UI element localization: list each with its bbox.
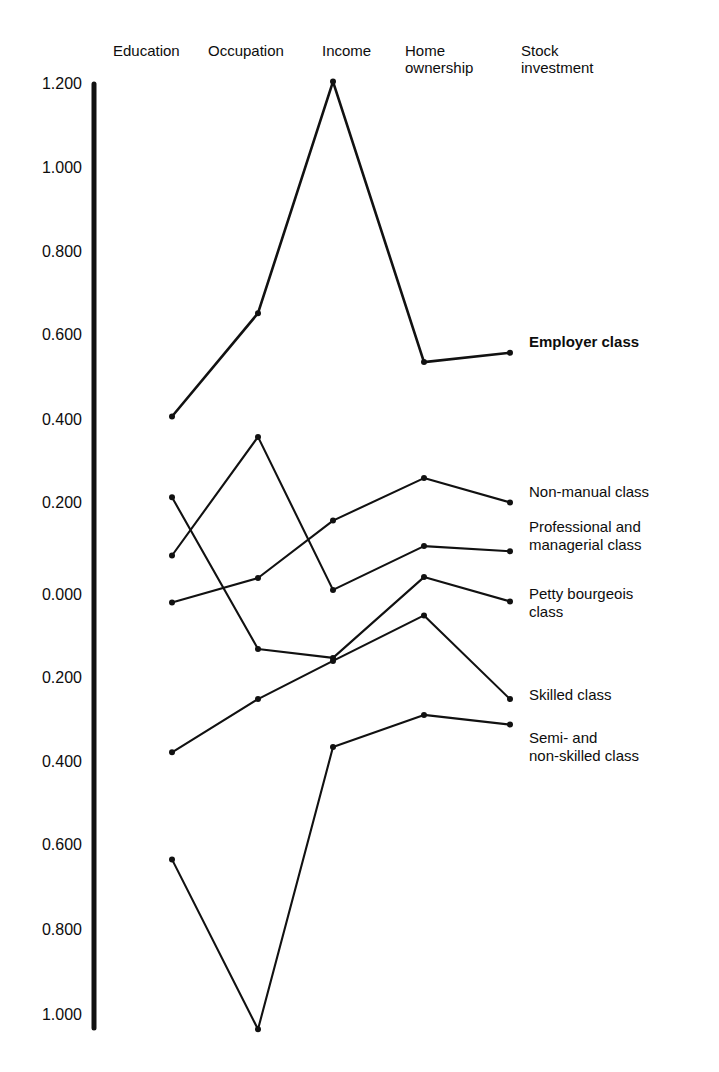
data-point xyxy=(255,696,261,702)
data-point xyxy=(507,499,513,505)
data-point xyxy=(421,475,427,481)
series-label-employer-class: Employer class xyxy=(529,333,639,351)
data-point xyxy=(507,350,513,356)
data-point xyxy=(330,658,336,664)
series-path xyxy=(172,82,510,417)
series-label-semi-non-skilled-class: Semi- and non-skilled class xyxy=(529,729,639,765)
data-point xyxy=(330,518,336,524)
series-label-petty-bourgeois-class: Petty bourgeois class xyxy=(529,585,633,621)
data-point xyxy=(169,553,175,559)
data-point xyxy=(421,359,427,365)
series-path xyxy=(172,478,510,602)
data-point xyxy=(169,749,175,755)
series-label-skilled-class: Skilled class xyxy=(529,686,612,704)
data-point xyxy=(330,744,336,750)
series-path xyxy=(172,437,510,590)
data-point xyxy=(507,598,513,604)
data-point xyxy=(255,1026,261,1032)
series-lines xyxy=(169,79,513,1033)
series-petty-bourgeois-class xyxy=(169,494,513,661)
data-point xyxy=(169,414,175,420)
data-point xyxy=(507,722,513,728)
data-point xyxy=(330,587,336,593)
data-point xyxy=(169,600,175,606)
data-point xyxy=(507,548,513,554)
series-path xyxy=(172,615,510,752)
parallel-coordinates-chart: Education Occupation Income Home ownersh… xyxy=(0,0,719,1072)
series-path xyxy=(172,497,510,658)
series-path xyxy=(172,715,510,1029)
data-point xyxy=(421,712,427,718)
data-point xyxy=(421,543,427,549)
series-skilled-class xyxy=(169,612,513,755)
series-semi-and-non-skilled-class xyxy=(169,712,513,1032)
data-point xyxy=(421,612,427,618)
data-point xyxy=(255,310,261,316)
series-label-professional-managerial-class: Professional and managerial class xyxy=(529,518,642,554)
data-point xyxy=(169,856,175,862)
series-employer-class xyxy=(169,79,513,420)
data-point xyxy=(255,434,261,440)
data-point xyxy=(330,79,336,85)
series-professional-and-managerial-class xyxy=(169,434,513,593)
data-point xyxy=(255,575,261,581)
data-point xyxy=(255,646,261,652)
data-point xyxy=(507,696,513,702)
series-label-non-manual-class: Non-manual class xyxy=(529,483,649,501)
data-point xyxy=(421,574,427,580)
data-point xyxy=(169,494,175,500)
